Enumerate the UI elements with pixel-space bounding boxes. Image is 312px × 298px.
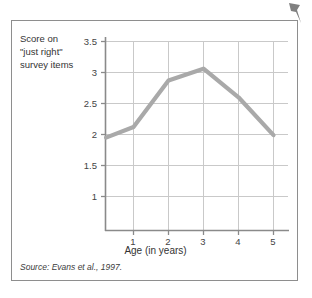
source-note: Source: Evans et al., 1997. bbox=[20, 262, 122, 272]
y-tick-label-3-5: 3.5 bbox=[71, 36, 97, 47]
y-tick-label-1-5: 1.5 bbox=[71, 160, 97, 171]
y-tick-label-3: 3 bbox=[71, 67, 97, 78]
y-tick-label-1: 1 bbox=[71, 191, 97, 202]
line-chart-plot bbox=[12, 21, 299, 282]
y-tick-label-2: 2 bbox=[71, 129, 97, 140]
x-axis-title: Age (in years) bbox=[12, 245, 299, 256]
x-axis-ticks bbox=[134, 231, 274, 235]
figure-frame: Score on "just right" survey items bbox=[11, 20, 298, 281]
y-tick-label-2-5: 2.5 bbox=[71, 98, 97, 109]
y-axis-ticks bbox=[101, 42, 105, 197]
